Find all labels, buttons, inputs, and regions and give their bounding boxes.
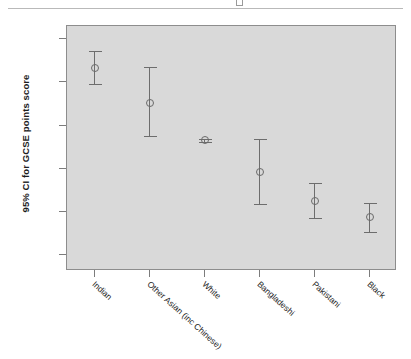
error-bar-upper-cap	[364, 203, 377, 204]
y-axis-title: 95% CI for GCSE points score	[20, 49, 31, 239]
x-axis-tick-mark	[94, 270, 95, 277]
header-divider	[8, 8, 403, 9]
y-axis-tick-mark	[59, 211, 66, 212]
mean-marker	[366, 213, 374, 221]
mean-marker	[256, 168, 264, 176]
x-axis-tick-label: Bangladeshi	[255, 279, 296, 318]
error-bar-lower-cap	[89, 84, 102, 85]
y-axis-tick-mark	[59, 125, 66, 126]
mean-marker	[311, 197, 319, 205]
y-axis-tick-mark	[59, 254, 66, 255]
error-bar-lower-cap	[364, 232, 377, 233]
error-bar-lower-cap	[309, 218, 322, 219]
x-axis-tick-mark	[204, 270, 205, 277]
x-axis-tick-label: Indian	[90, 279, 114, 302]
x-axis-tick-label: White	[200, 279, 223, 301]
x-axis-tick-label: Black	[365, 279, 387, 300]
x-axis-tick-mark	[149, 270, 150, 277]
plot-panel	[66, 25, 396, 270]
error-bar-upper-cap	[309, 183, 322, 184]
x-axis-tick-mark	[314, 270, 315, 277]
error-bar-lower-cap	[144, 136, 157, 137]
mean-marker	[146, 99, 154, 107]
error-bar-upper-cap	[254, 139, 267, 140]
mean-marker	[91, 64, 99, 72]
figure-container: 95% CI for GCSE points score 30.035.040.…	[0, 0, 411, 359]
x-axis-tick-label: Pakistani	[310, 279, 342, 310]
y-axis-tick-mark	[59, 38, 66, 39]
error-bar-upper-cap	[144, 67, 157, 68]
y-axis-tick-mark	[59, 168, 66, 169]
y-axis-tick-mark	[59, 81, 66, 82]
x-axis-tick-mark	[369, 270, 370, 277]
error-bar-lower-cap	[254, 204, 267, 205]
cropped-glyph-icon	[236, 0, 243, 6]
mean-marker	[201, 136, 209, 144]
x-axis-tick-mark	[259, 270, 260, 277]
error-bar-upper-cap	[89, 51, 102, 52]
